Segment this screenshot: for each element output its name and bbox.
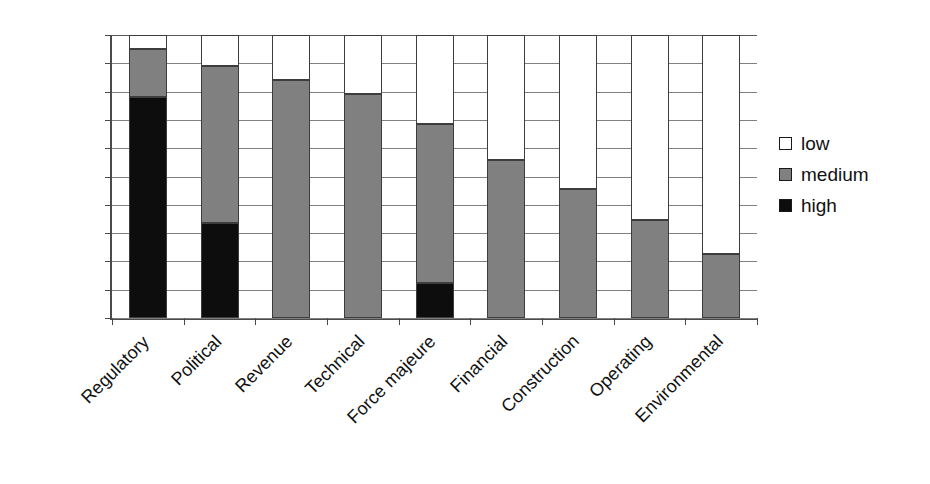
x-axis-tick-label: Technical bbox=[302, 332, 368, 398]
x-axis: RegulatoryPoliticalRevenueTechnicalForce… bbox=[0, 0, 930, 484]
legend-label: medium bbox=[801, 165, 869, 184]
x-axis-tick-label: Regulatory bbox=[78, 332, 152, 406]
legend-swatch-low-icon bbox=[779, 137, 792, 150]
legend-item-low[interactable]: low bbox=[779, 128, 919, 159]
x-axis-tick-label: Financial bbox=[447, 332, 511, 396]
stacked-bar-chart: 100%90%80%70%60%50%40%30%20%10%0% Regula… bbox=[0, 0, 930, 484]
legend-item-medium[interactable]: medium bbox=[779, 159, 919, 190]
legend-item-high[interactable]: high bbox=[779, 190, 919, 221]
legend-label: high bbox=[801, 196, 837, 215]
legend-label: low bbox=[801, 134, 830, 153]
legend-swatch-high-icon bbox=[779, 199, 792, 212]
x-axis-tick-label: Revenue bbox=[232, 332, 296, 396]
legend-swatch-medium-icon bbox=[779, 168, 792, 181]
x-axis-tick-label: Political bbox=[168, 332, 225, 389]
x-axis-tick-label: Operating bbox=[586, 332, 655, 401]
chart-legend: lowmediumhigh bbox=[779, 128, 919, 221]
